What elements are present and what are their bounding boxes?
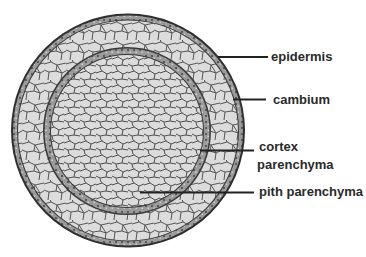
pith-parenchyma-layer bbox=[51, 55, 203, 207]
label-cortex-line1: cortex bbox=[259, 139, 298, 154]
label-pith-parenchyma: pith parenchyma bbox=[259, 184, 363, 199]
stem-cross-section-diagram bbox=[0, 0, 366, 257]
label-epidermis: epidermis bbox=[271, 49, 332, 64]
label-cambium: cambium bbox=[273, 92, 330, 107]
label-cortex-line2: parenchyma bbox=[257, 157, 334, 172]
